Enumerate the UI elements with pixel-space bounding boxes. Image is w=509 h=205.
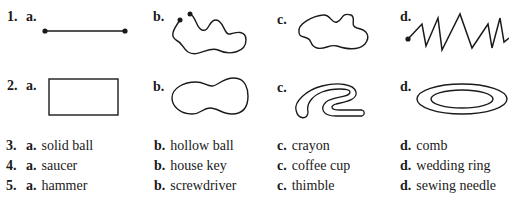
option-text: house key bbox=[170, 158, 226, 173]
option-letter: c. bbox=[277, 13, 287, 27]
option-text: coffee cup bbox=[292, 158, 350, 173]
option-text: crayon bbox=[292, 138, 330, 153]
option-text: hollow ball bbox=[170, 138, 233, 153]
ring-figure bbox=[415, 82, 509, 116]
option-text: wedding ring bbox=[416, 158, 490, 173]
option-letter: c. bbox=[277, 178, 287, 193]
option-letter: a. bbox=[26, 158, 37, 173]
option-letter: d. bbox=[400, 138, 411, 153]
option-a: a.solid ball bbox=[26, 136, 93, 156]
option-c: c.thimble bbox=[277, 176, 335, 196]
curled-band-figure bbox=[292, 80, 367, 120]
question-number: 5. bbox=[6, 176, 17, 196]
option-letter: c. bbox=[277, 81, 287, 95]
option-a: a.hammer bbox=[26, 176, 87, 196]
option-d: d.comb bbox=[400, 136, 447, 156]
option-letter: a. bbox=[26, 79, 37, 93]
option-letter: a. bbox=[26, 10, 37, 24]
question-5: 5. a.hammer b.screwdriver c.thimble d.se… bbox=[0, 176, 509, 196]
option-letter: b. bbox=[153, 80, 164, 94]
question-4: 4. a.saucer b.house key c.coffee cup d.w… bbox=[0, 156, 509, 176]
option-letter: c. bbox=[277, 138, 287, 153]
option-letter: a. bbox=[26, 138, 37, 153]
option-letter: b. bbox=[154, 138, 165, 153]
squiggly-curve-figure bbox=[168, 8, 253, 56]
peanut-curve-figure bbox=[170, 76, 250, 118]
option-c: c.crayon bbox=[277, 136, 330, 156]
option-b: b.screwdriver bbox=[154, 176, 236, 196]
rectangle-figure bbox=[48, 78, 120, 118]
option-text: comb bbox=[416, 138, 447, 153]
option-letter: b. bbox=[154, 178, 165, 193]
question-number: 1. bbox=[7, 10, 18, 24]
question-number: 2. bbox=[7, 79, 18, 93]
option-text: solid ball bbox=[42, 138, 94, 153]
option-letter: a. bbox=[26, 178, 37, 193]
option-d: d.sewing needle bbox=[400, 176, 496, 196]
option-letter: d. bbox=[400, 178, 411, 193]
option-text: saucer bbox=[42, 158, 78, 173]
option-b: b.house key bbox=[154, 156, 227, 176]
question-number: 4. bbox=[6, 156, 17, 176]
option-b: b.hollow ball bbox=[154, 136, 234, 156]
option-letter: b. bbox=[154, 158, 165, 173]
option-letter: d. bbox=[400, 158, 411, 173]
option-c: c.coffee cup bbox=[277, 156, 350, 176]
zigzag-figure bbox=[404, 12, 509, 52]
option-letter: b. bbox=[153, 10, 164, 24]
option-letter: d. bbox=[400, 80, 411, 94]
question-number: 3. bbox=[6, 136, 17, 156]
option-text: screwdriver bbox=[170, 178, 236, 193]
option-letter: c. bbox=[277, 158, 287, 173]
option-a: a.saucer bbox=[26, 156, 77, 176]
option-text: sewing needle bbox=[416, 178, 496, 193]
option-text: thimble bbox=[292, 178, 335, 193]
option-text: hammer bbox=[42, 178, 88, 193]
wavy-closed-curve-figure bbox=[295, 10, 375, 55]
line-segment-figure bbox=[40, 26, 130, 36]
question-3: 3. a.solid ball b.hollow ball c.crayon d… bbox=[0, 136, 509, 156]
option-d: d.wedding ring bbox=[400, 156, 491, 176]
